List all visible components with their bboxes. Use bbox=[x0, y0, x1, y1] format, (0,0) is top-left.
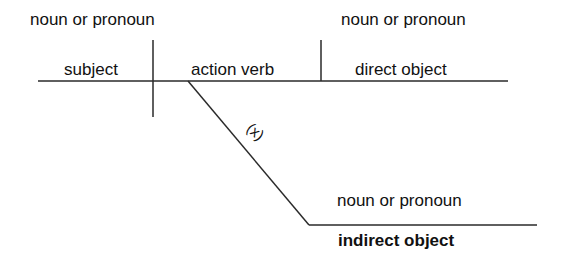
indirect-object-hint-label: noun or pronoun bbox=[337, 192, 462, 209]
indirect-object-label: indirect object bbox=[338, 232, 454, 249]
indirect-object-diagonal bbox=[188, 81, 309, 225]
sentence-diagram-lines bbox=[0, 0, 565, 266]
subject-label: subject bbox=[64, 61, 118, 78]
direct-object-hint-label: noun or pronoun bbox=[341, 11, 466, 28]
verb-label: action verb bbox=[191, 61, 274, 78]
direct-object-label: direct object bbox=[355, 61, 447, 78]
subject-hint-label: noun or pronoun bbox=[30, 11, 155, 28]
